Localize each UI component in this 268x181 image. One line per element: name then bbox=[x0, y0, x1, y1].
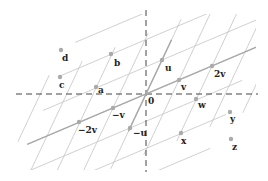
label-neg-2v: −2v bbox=[78, 125, 98, 135]
label-w: w bbox=[197, 100, 206, 110]
label-2v: 2v bbox=[214, 69, 226, 79]
point-neg-u bbox=[128, 126, 132, 130]
point-neg-2v bbox=[77, 120, 81, 124]
point-u bbox=[160, 58, 164, 62]
grid-line-v-direction bbox=[75, 0, 268, 42]
point-2v bbox=[210, 64, 214, 68]
grid-line-u-direction bbox=[243, 0, 268, 113]
label-u: u bbox=[165, 63, 172, 73]
point-c bbox=[58, 75, 62, 79]
grid-line-v-direction bbox=[43, 12, 268, 110]
label-b: b bbox=[114, 58, 120, 68]
label-neg-u: −u bbox=[133, 128, 148, 138]
origin-label: 0 bbox=[148, 96, 154, 106]
label-x: x bbox=[181, 136, 187, 146]
grid-line-u-direction bbox=[0, 89, 16, 181]
label-v: v bbox=[180, 82, 187, 92]
point-b bbox=[109, 52, 113, 56]
grid-line-v-direction bbox=[59, 0, 268, 76]
point-x bbox=[179, 131, 183, 135]
lattice-diagram: 0 uv2v−v−2v−uabcdwxyz bbox=[0, 0, 268, 181]
grid-line-v-direction bbox=[0, 148, 210, 181]
lattice-grid bbox=[0, 0, 268, 181]
label-d: d bbox=[62, 53, 69, 63]
point-labels: 0 uv2v−v−2v−uabcdwxyz bbox=[59, 53, 237, 152]
label-neg-v: −v bbox=[112, 110, 126, 120]
point-z bbox=[229, 137, 233, 141]
label-z: z bbox=[232, 142, 237, 152]
label-c: c bbox=[59, 80, 65, 90]
label-y: y bbox=[229, 114, 236, 124]
grid-line-v-direction bbox=[91, 0, 268, 8]
grid-line-v-direction bbox=[0, 114, 226, 181]
label-a: a bbox=[98, 85, 104, 95]
grid-line-v-direction bbox=[11, 80, 242, 178]
point-d bbox=[59, 48, 63, 52]
